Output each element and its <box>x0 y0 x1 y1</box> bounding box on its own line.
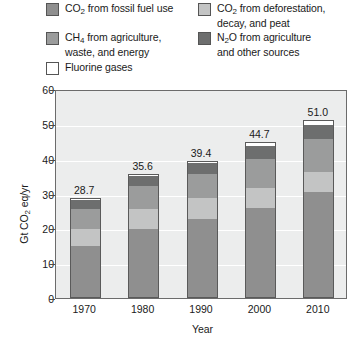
chart-plot-wrapper: Gt CO2 eq/yr Year 010203040506028.719703… <box>0 84 355 348</box>
bar-segment <box>246 159 275 188</box>
bar-segment <box>188 174 217 198</box>
bar-value-label: 28.7 <box>54 184 114 196</box>
bar-1990[interactable] <box>187 161 218 298</box>
bar-1980[interactable] <box>128 174 159 298</box>
bar-2000[interactable] <box>245 142 276 298</box>
bar-segment <box>304 192 333 297</box>
bar-segment <box>129 186 158 209</box>
bar-segment <box>246 146 275 158</box>
y-tick-label: 10 <box>14 258 54 270</box>
legend-n2o: N2O from agriculture and other sources <box>198 31 311 58</box>
bar-segment <box>129 229 158 297</box>
bar-segment <box>304 172 333 193</box>
x-tick-label-1970: 1970 <box>54 303 114 315</box>
y-tick-mark <box>49 160 55 161</box>
bar-segment <box>188 163 217 174</box>
legend-ch4-label: CH4 from agriculture, waste, and energy <box>65 31 161 58</box>
y-tick-label: 60 <box>14 84 54 96</box>
bar-segment <box>246 208 275 297</box>
bar-segment <box>129 176 158 186</box>
y-tick-label: 0 <box>14 293 54 305</box>
x-tick-label-2010: 2010 <box>288 303 348 315</box>
x-tick-label-2000: 2000 <box>229 303 289 315</box>
y-tick-label: 50 <box>14 119 54 131</box>
legend-co2-deforestation: CO2 from deforestation, decay, and peat <box>198 2 325 29</box>
legend-fluorine: Fluorine gases <box>46 61 132 75</box>
bar-segment <box>188 219 217 297</box>
legend-fluorine-label: Fluorine gases <box>65 61 132 74</box>
y-tick-mark <box>49 264 55 265</box>
y-tick-label: 20 <box>14 223 54 235</box>
legend-n2o-swatch-icon <box>198 32 211 45</box>
y-tick-mark <box>49 125 55 126</box>
y-tick-mark <box>49 299 55 300</box>
x-axis-title: Year <box>55 323 350 335</box>
bar-value-label: 51.0 <box>288 106 348 118</box>
bar-segment <box>304 139 333 172</box>
legend-co2-fossil-swatch-icon <box>46 3 59 16</box>
bar-value-label: 44.7 <box>229 128 289 140</box>
legend-ch4-swatch-icon <box>46 32 59 45</box>
y-tick-label: 30 <box>14 189 54 201</box>
bar-segment <box>304 125 333 139</box>
y-tick-mark <box>49 90 55 91</box>
x-tick-label-1990: 1990 <box>171 303 231 315</box>
legend-co2-fossil: CO2 from fossil fuel use <box>46 2 173 17</box>
bar-value-label: 39.4 <box>171 147 231 159</box>
bar-segment <box>71 200 100 209</box>
bar-segment <box>246 188 275 208</box>
legend-co2-deforestation-label: CO2 from deforestation, decay, and peat <box>217 2 325 29</box>
chart-legend: CO2 from fossil fuel useCO2 from defores… <box>0 0 355 84</box>
legend-co2-deforestation-swatch-icon <box>198 3 211 16</box>
bar-1970[interactable] <box>70 198 101 298</box>
legend-n2o-label: N2O from agriculture and other sources <box>217 31 311 58</box>
bar-value-label: 35.6 <box>113 160 173 172</box>
y-axis-title: Gt CO2 eq/yr <box>18 154 30 274</box>
x-tick-label-1980: 1980 <box>113 303 173 315</box>
bar-segment <box>71 209 100 229</box>
legend-ch4: CH4 from agriculture, waste, and energy <box>46 31 161 58</box>
bar-2010[interactable] <box>303 120 334 298</box>
legend-fluorine-swatch-icon <box>46 62 59 75</box>
y-tick-mark <box>49 229 55 230</box>
bar-segment <box>188 198 217 219</box>
bar-segment <box>129 209 158 229</box>
y-tick-label: 40 <box>14 154 54 166</box>
legend-co2-fossil-label: CO2 from fossil fuel use <box>65 2 173 17</box>
bar-segment <box>71 246 100 297</box>
bar-segment <box>71 229 100 246</box>
